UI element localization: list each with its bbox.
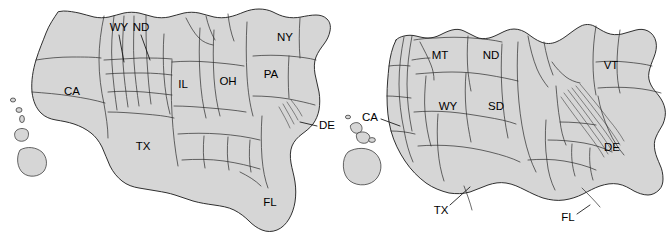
label-text-mt: MT xyxy=(432,49,449,61)
label-text-oh: OH xyxy=(219,75,236,87)
leader-line-fl-right xyxy=(577,205,590,214)
label-text-wy: WY xyxy=(110,21,129,33)
left-cartogram-panel: CA WY ND TX IL OH PA NY FL DE xyxy=(0,0,335,237)
label-text-vt: VT xyxy=(604,59,619,71)
label-ca-left: CA xyxy=(64,85,80,97)
label-text-ca-right: CA xyxy=(362,111,378,123)
right-cartogram-panel: CA MT ND WY SD VT TX DE FL xyxy=(335,0,669,237)
label-text-tx-right: TX xyxy=(434,204,449,216)
cartogram-figure: CA WY ND TX IL OH PA NY FL DE xyxy=(0,0,669,237)
label-text-ny: NY xyxy=(277,31,293,43)
right-mainland xyxy=(387,25,665,201)
right-hawaii-islands xyxy=(343,115,381,185)
label-text-nd: ND xyxy=(133,21,150,33)
label-text-tx-left: TX xyxy=(136,140,151,152)
label-text-pa: PA xyxy=(264,68,279,80)
right-cartogram-svg: CA MT ND WY SD VT TX DE FL xyxy=(335,0,669,237)
label-text-ca-left: CA xyxy=(64,85,80,97)
label-text-de-right: DE xyxy=(604,141,620,153)
left-cartogram-svg: CA WY ND TX IL OH PA NY FL DE xyxy=(0,0,335,237)
label-text-il: IL xyxy=(178,78,188,90)
label-text-wy-right: WY xyxy=(439,100,458,112)
label-text-nd-right: ND xyxy=(483,49,500,61)
label-text-de-left: DE xyxy=(319,119,335,131)
label-fl-right: FL xyxy=(561,205,590,223)
label-text-fl-right: FL xyxy=(561,211,575,223)
label-text-fl-left: FL xyxy=(263,196,277,208)
label-text-sd: SD xyxy=(488,100,504,112)
